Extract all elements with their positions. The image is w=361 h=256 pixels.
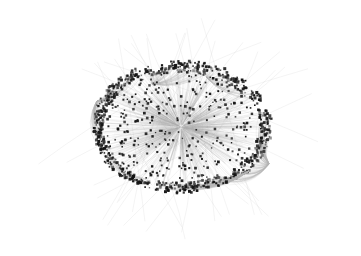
network-graph-canvas — [0, 0, 361, 256]
network-graph-figure: Network graph hairball layout Grayscale … — [0, 0, 361, 256]
